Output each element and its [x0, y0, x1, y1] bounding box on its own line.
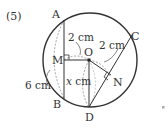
label-n: N [113, 76, 123, 89]
measure-od: x cm [66, 75, 91, 87]
measure-ab: 6 cm [25, 79, 51, 91]
label-d: D [85, 111, 94, 124]
problem-number: (5) [6, 10, 22, 23]
label-b: B [53, 98, 61, 111]
unit-cm: cm [72, 75, 91, 87]
label-a: A [51, 8, 61, 21]
label-m: M [52, 54, 63, 67]
label-o: O [84, 46, 93, 59]
leader-mo [76, 42, 81, 55]
label-c: C [131, 30, 139, 43]
measure-on: 2 cm [99, 39, 125, 51]
measure-mo: 2 cm [68, 31, 94, 43]
circle-chord-diagram: (5) A B C D M N O 2 cm 2 cm 6 cm x cm [0, 0, 168, 131]
stray-dot [162, 106, 165, 109]
